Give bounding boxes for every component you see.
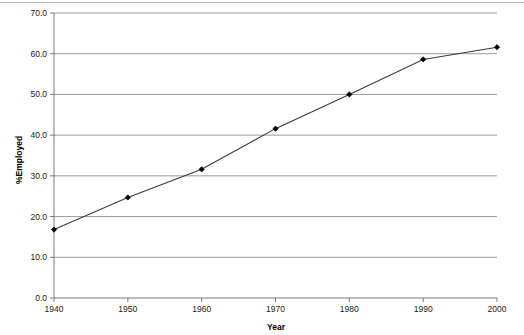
x-tick-label: 1970 [266, 304, 285, 314]
data-markers [51, 45, 499, 233]
data-point-marker [273, 126, 278, 131]
data-point-marker [421, 57, 426, 62]
data-line [54, 47, 497, 229]
x-tick-label: 1950 [118, 304, 137, 314]
y-tick-label: 0.0 [35, 293, 47, 303]
y-axis-ticks [50, 13, 54, 298]
data-point-marker [199, 167, 204, 172]
x-tick-labels: 1940195019601970198019902000 [45, 304, 507, 314]
x-axis-title: Year [267, 322, 286, 332]
x-tick-label: 1980 [340, 304, 359, 314]
data-point-marker [494, 45, 499, 50]
data-point-marker [51, 227, 56, 232]
y-tick-label: 30.0 [30, 171, 47, 181]
y-tick-label: 50.0 [30, 89, 47, 99]
y-tick-label: 60.0 [30, 49, 47, 59]
y-tick-label: 70.0 [30, 8, 47, 18]
x-tick-label: 1990 [414, 304, 433, 314]
y-axis-title: %Employed [14, 136, 24, 184]
x-tick-label: 1960 [192, 304, 211, 314]
series-line [54, 47, 497, 229]
data-point-marker [347, 92, 352, 97]
y-tick-label: 20.0 [30, 212, 47, 222]
x-tick-label: 2000 [488, 304, 507, 314]
gridlines [54, 13, 497, 257]
x-tick-label: 1940 [45, 304, 64, 314]
y-tick-label: 40.0 [30, 130, 47, 140]
chart-container: 0.010.020.030.040.050.060.070.0 19401950… [0, 0, 524, 335]
y-tick-label: 10.0 [30, 252, 47, 262]
x-axis-ticks [54, 298, 497, 302]
data-point-marker [125, 195, 130, 200]
y-tick-labels: 0.010.020.030.040.050.060.070.0 [30, 8, 47, 303]
line-chart: 0.010.020.030.040.050.060.070.0 19401950… [0, 0, 524, 335]
